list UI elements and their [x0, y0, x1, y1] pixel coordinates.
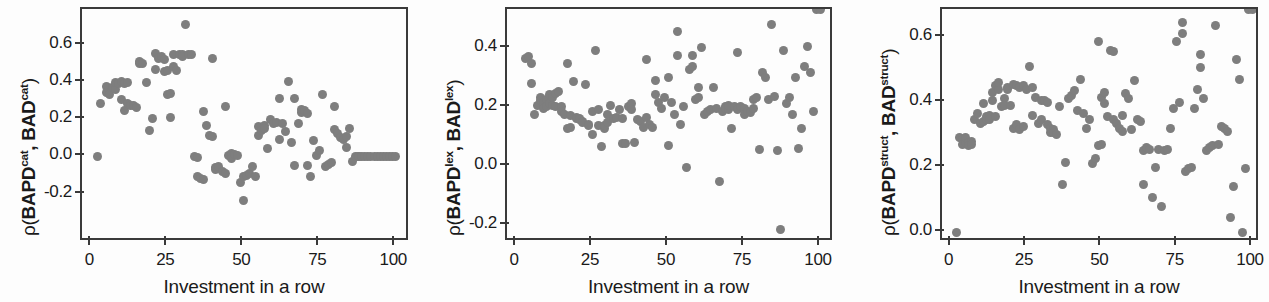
data-point	[1226, 213, 1235, 222]
data-point	[773, 146, 782, 155]
x-tick-mark	[392, 236, 394, 245]
x-tick-label: 75	[712, 250, 772, 270]
data-point	[770, 92, 779, 101]
data-point	[1028, 83, 1037, 92]
data-point	[752, 93, 761, 102]
data-point	[694, 93, 703, 102]
x-tick-label: 100	[363, 250, 423, 270]
y-tick-mark	[75, 79, 84, 81]
data-point	[123, 78, 132, 87]
data-point	[275, 94, 284, 103]
x-tick-label: 0	[919, 250, 979, 270]
data-point	[527, 79, 536, 88]
data-point	[1100, 88, 1109, 97]
data-point	[709, 83, 718, 92]
data-point	[581, 80, 590, 89]
data-point	[584, 121, 593, 130]
data-point	[1019, 122, 1028, 131]
data-point	[1148, 193, 1157, 202]
data-point	[1136, 117, 1145, 126]
data-point	[208, 54, 217, 63]
data-point	[715, 177, 724, 186]
data-point	[785, 93, 794, 102]
data-point	[1223, 127, 1232, 136]
x-tick-label: 0	[59, 250, 119, 270]
data-point	[988, 96, 997, 105]
data-point	[281, 127, 290, 136]
data-point	[651, 76, 660, 85]
data-point	[1232, 55, 1241, 64]
data-point	[1157, 202, 1166, 211]
y-axis-title: ρ(BAPDstruct, BADstruct)	[878, 49, 900, 236]
data-point	[151, 65, 160, 74]
data-point	[554, 87, 563, 96]
data-point	[287, 138, 296, 147]
x-tick-label: 50	[636, 250, 696, 270]
data-point	[1124, 94, 1133, 103]
data-point	[1211, 21, 1220, 30]
data-point	[1043, 98, 1052, 107]
x-tick-mark	[948, 236, 950, 245]
data-point	[251, 172, 260, 181]
y-tick-mark	[75, 42, 84, 44]
x-tick-mark	[1249, 236, 1251, 245]
data-point	[290, 94, 299, 103]
data-point	[1196, 63, 1205, 72]
data-point	[132, 103, 141, 112]
data-point	[1118, 111, 1127, 120]
x-tick-label: 25	[560, 250, 620, 270]
data-point	[682, 163, 691, 172]
y-tick-mark	[935, 34, 944, 36]
data-point	[1163, 145, 1172, 154]
x-tick-label: 100	[788, 250, 848, 270]
data-point	[797, 124, 806, 133]
data-point	[233, 151, 242, 160]
data-point	[239, 196, 248, 205]
y-tick-mark	[935, 99, 944, 101]
data-point	[1091, 154, 1100, 163]
data-point	[193, 153, 202, 162]
data-point	[1052, 130, 1061, 139]
data-point	[527, 59, 536, 68]
x-tick-mark	[665, 236, 667, 245]
data-point	[202, 121, 211, 130]
data-point	[315, 146, 324, 155]
data-point	[676, 120, 685, 129]
data-point	[1085, 115, 1094, 124]
data-point	[303, 109, 312, 118]
data-point	[166, 113, 175, 122]
data-point	[1178, 29, 1187, 38]
data-point	[1248, 9, 1257, 14]
y-tick-mark	[75, 191, 84, 193]
data-point	[791, 73, 800, 82]
data-point	[761, 73, 770, 82]
data-point	[160, 55, 169, 64]
data-point	[263, 144, 272, 153]
data-point	[794, 144, 803, 153]
data-point	[994, 78, 1003, 87]
y-tick-mark	[935, 229, 944, 231]
data-point	[688, 51, 697, 60]
data-point	[806, 68, 815, 77]
x-tick-label: 75	[1145, 250, 1205, 270]
data-point	[1193, 85, 1202, 94]
data-point	[1006, 101, 1015, 110]
data-point	[309, 136, 318, 145]
x-tick-mark	[1023, 236, 1025, 245]
data-point	[697, 43, 706, 52]
data-point	[294, 119, 303, 128]
data-point	[342, 143, 351, 152]
data-point	[303, 161, 312, 170]
x-tick-mark	[240, 236, 242, 245]
data-point	[1187, 163, 1196, 172]
data-points-layer	[507, 9, 830, 238]
x-axis-title: Investment in a row	[80, 276, 408, 298]
data-point	[694, 83, 703, 92]
data-point	[1196, 50, 1205, 59]
data-point	[1178, 18, 1187, 27]
data-point	[1145, 145, 1154, 154]
data-point	[290, 161, 299, 170]
x-axis-title: Investment in a row	[505, 276, 832, 298]
data-point	[1229, 182, 1238, 191]
data-point	[1061, 158, 1070, 167]
